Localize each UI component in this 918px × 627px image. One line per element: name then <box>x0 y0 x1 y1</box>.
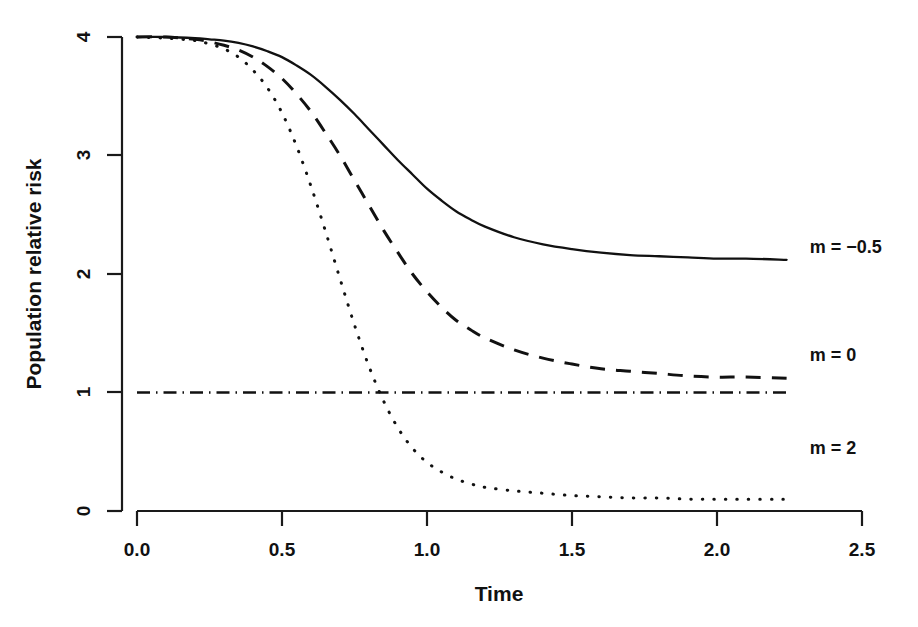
line-chart-svg: 0.0 0.5 1.0 1.5 2.0 2.5 0 1 2 3 4 Time P… <box>0 0 918 627</box>
y-tick-label-0: 0 <box>73 506 94 517</box>
series-line-m-2 <box>137 37 787 499</box>
axes-group <box>122 37 862 511</box>
y-tick-label-3: 3 <box>73 150 94 161</box>
series-labels: m = −0.5 m = 0 m = 2 <box>810 237 882 459</box>
y-tick-label-1: 1 <box>73 386 94 397</box>
x-tick-label-4: 2.0 <box>704 539 730 560</box>
y-axis-title: Population relative risk <box>22 158 45 389</box>
x-tick-label-3: 1.5 <box>559 539 586 560</box>
y-axis-tick-labels: 0 1 2 3 4 <box>73 31 94 516</box>
x-axis-tick-labels: 0.0 0.5 1.0 1.5 2.0 2.5 <box>124 539 876 560</box>
series-label-m-2: m = 2 <box>810 438 857 458</box>
x-tick-label-0: 0.0 <box>124 539 150 560</box>
x-tick-label-5: 2.5 <box>849 539 876 560</box>
x-tick-label-2: 1.0 <box>414 539 440 560</box>
y-tick-label-2: 2 <box>73 269 94 280</box>
y-axis-ticks <box>107 37 122 511</box>
x-tick-label-1: 0.5 <box>269 539 296 560</box>
series-line-m-0 <box>137 37 787 378</box>
data-curves <box>137 37 787 499</box>
chart-figure: 0.0 0.5 1.0 1.5 2.0 2.5 0 1 2 3 4 Time P… <box>0 0 918 627</box>
x-axis-ticks <box>137 511 862 526</box>
y-tick-label-4: 4 <box>73 31 94 42</box>
series-label-m-0: m = 0 <box>810 345 857 365</box>
x-axis-title: Time <box>475 582 524 605</box>
series-line-m-minus-0-5 <box>137 37 787 260</box>
series-label-m-minus-0-5: m = −0.5 <box>810 237 882 257</box>
